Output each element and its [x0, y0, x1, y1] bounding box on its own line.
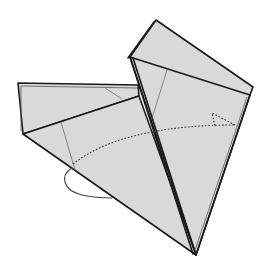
- origami-diagram: Grey paper model with left flap and righ…: [0, 0, 270, 274]
- diagram-canvas: [0, 0, 270, 274]
